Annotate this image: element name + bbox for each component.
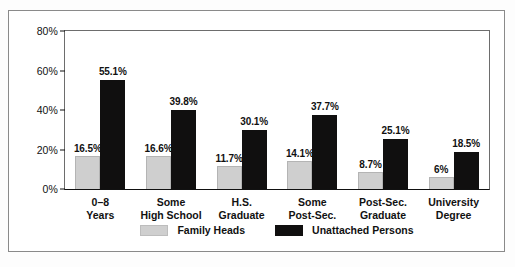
legend-swatch-family <box>140 225 168 236</box>
legend-label: Unattached Persons <box>312 224 414 236</box>
y-axis-tick-mark <box>60 70 65 71</box>
y-axis-tick-mark <box>60 149 65 150</box>
bar-value-label: 14.1% <box>286 148 314 159</box>
x-axis-category-label: Post-Sec.Graduate <box>359 196 407 221</box>
x-axis-category-label: UniversityDegree <box>428 196 479 221</box>
legend-item: Family Heads <box>140 224 245 236</box>
y-axis-tick-label: 0% <box>43 183 58 195</box>
bar-family-heads: 16.5% <box>75 156 100 189</box>
plot-area: 0%20%40%60%80%16.5%55.1%0–8Years16.6%39.… <box>64 30 490 190</box>
y-axis-tick-mark <box>60 189 65 190</box>
y-axis-tick-label: 40% <box>37 104 58 116</box>
bar-family-heads: 11.7% <box>217 166 242 189</box>
bar-value-label: 11.7% <box>216 153 243 164</box>
bar-family-heads: 14.1% <box>287 161 312 189</box>
bar-value-label: 55.1% <box>99 66 127 77</box>
y-axis-tick-label: 80% <box>37 25 58 37</box>
legend-item: Unattached Persons <box>275 224 414 236</box>
bar-value-label: 16.5% <box>74 143 102 154</box>
x-axis-category-label: SomePost-Sec. <box>288 196 336 221</box>
bar-family-heads: 16.6% <box>146 156 171 189</box>
bar-family-heads: 6% <box>429 177 454 189</box>
bar-unattached-persons: 55.1% <box>100 80 125 189</box>
bar-value-label: 25.1% <box>382 125 410 136</box>
bar-value-label: 6% <box>434 164 448 175</box>
chart-legend: Family HeadsUnattached Persons <box>64 224 490 236</box>
bar-unattached-persons: 37.7% <box>312 115 337 189</box>
x-axis-category-label: 0–8Years <box>86 196 114 221</box>
y-axis-tick-label: 60% <box>37 65 58 77</box>
bar-unattached-persons: 30.1% <box>242 130 267 189</box>
bar-unattached-persons: 25.1% <box>383 139 408 189</box>
bar-unattached-persons: 18.5% <box>454 152 479 189</box>
bar-value-label: 37.7% <box>311 101 339 112</box>
legend-swatch-unattached <box>275 225 303 236</box>
x-axis-category-label: H.S.Graduate <box>219 196 265 221</box>
bar-family-heads: 8.7% <box>358 172 383 189</box>
bar-value-label: 8.7% <box>359 159 381 170</box>
y-axis-tick-mark <box>60 31 65 32</box>
chart-figure: 0%20%40%60%80%16.5%55.1%0–8Years16.6%39.… <box>0 0 515 267</box>
bar-unattached-persons: 39.8% <box>171 110 196 189</box>
bar-value-label: 16.6% <box>145 143 173 154</box>
bar-value-label: 30.1% <box>240 116 268 127</box>
bar-value-label: 39.8% <box>170 96 198 107</box>
x-axis-category-label: SomeHigh School <box>140 196 201 221</box>
bar-value-label: 18.5% <box>452 138 480 149</box>
y-axis-tick-label: 20% <box>37 144 58 156</box>
y-axis-tick-mark <box>60 110 65 111</box>
legend-label: Family Heads <box>177 224 245 236</box>
